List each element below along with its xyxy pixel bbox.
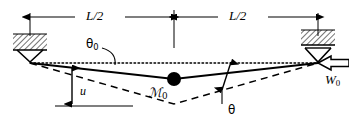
mass-subscript: 0 <box>162 91 168 101</box>
span-right-label: L/2 <box>229 9 246 22</box>
load-glyph: W <box>325 72 336 87</box>
right-support-hatching <box>301 30 335 45</box>
diagram-canvas <box>0 0 349 122</box>
theta-angle-arrow <box>222 62 231 104</box>
load-subscript: 0 <box>336 78 340 88</box>
load-label: W0 <box>325 73 340 88</box>
point-mass <box>167 72 181 86</box>
displacement-label: u <box>80 85 86 97</box>
left-support-triangle <box>17 50 43 62</box>
mass-label: ℳ0 <box>148 86 168 101</box>
theta-double-arrow <box>222 62 231 90</box>
span-left-label: L/2 <box>86 9 103 22</box>
left-pin-support <box>13 34 47 62</box>
mass-glyph: ℳ <box>148 85 162 100</box>
engineering-diagram: L/2 L/2 θ0 θ ℳ0 u W0 <box>0 0 349 122</box>
theta-deflected-label: θ <box>228 104 235 116</box>
theta-initial-label: θ0 <box>86 38 99 52</box>
left-support-hatching <box>13 34 47 50</box>
theta-initial-subscript: 0 <box>93 42 98 52</box>
